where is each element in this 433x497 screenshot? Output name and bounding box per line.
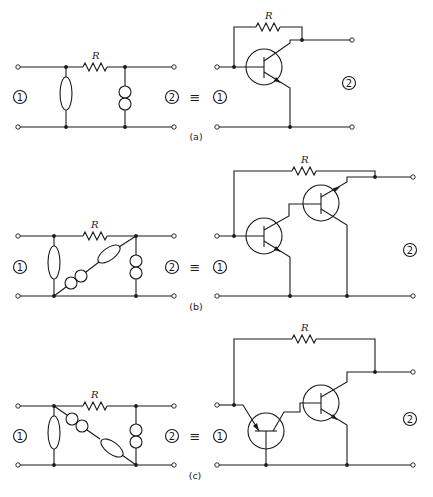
panel-b-right-circuit: R 1 2 [214, 154, 417, 298]
equivalence-sign: ≡ [190, 90, 201, 105]
panel-c-left-network: R 1 2 [14, 389, 179, 467]
resistor-icon [292, 335, 316, 343]
double-circle-element-icon [119, 86, 131, 98]
port-2-label: 2 [407, 414, 413, 425]
resistor-label: R [90, 219, 99, 230]
port-2-label: 2 [407, 245, 413, 256]
port-2-label: 2 [169, 431, 175, 442]
ellipse-element-icon [48, 416, 60, 449]
ellipse-element-icon [60, 77, 72, 110]
port-1-label: 1 [17, 431, 23, 442]
resistor-label: R [90, 389, 99, 400]
resistor-icon [292, 167, 316, 175]
panel-b-left-network: R 1 2 [14, 219, 179, 298]
port-1-label: 1 [217, 92, 223, 103]
port-2-label: 2 [169, 92, 175, 103]
ellipse-element-icon [98, 436, 126, 461]
panel-label: (a) [189, 131, 202, 142]
resistor-label: R [300, 154, 309, 165]
panel-c-right-circuit: R 1 2 [214, 322, 417, 467]
port-1-label: 1 [217, 431, 223, 442]
port-1-label: 1 [17, 262, 23, 273]
circuit-figure: R 1 2 ≡ (a) [0, 0, 433, 497]
panel-a: R 1 2 ≡ (a) [14, 10, 356, 142]
ellipse-element-icon [48, 246, 60, 279]
panel-c: R 1 2 ≡ (c) [14, 322, 417, 481]
resistor-icon [83, 232, 107, 240]
port-1-label: 1 [217, 262, 223, 273]
panel-a-left-network: R 1 2 [14, 50, 179, 129]
port-1-label: 1 [17, 92, 23, 103]
double-circle-element-icon [130, 424, 142, 436]
panel-a-right-circuit: R 1 2 [214, 10, 356, 129]
double-circle-element-icon [130, 255, 142, 267]
equivalence-sign: ≡ [190, 429, 201, 444]
panel-label: (b) [189, 301, 202, 312]
ellipse-element-icon [95, 242, 123, 267]
panel-b: R 1 2 ≡ (b) [14, 154, 417, 312]
resistor-label: R [300, 322, 309, 333]
panel-label: (c) [189, 470, 202, 481]
port-2-label: 2 [169, 262, 175, 273]
resistor-label: R [264, 10, 273, 21]
resistor-icon [83, 402, 107, 410]
resistor-icon [256, 23, 280, 31]
resistor-icon [83, 63, 107, 71]
equivalence-sign: ≡ [190, 260, 201, 275]
resistor-label: R [91, 50, 100, 61]
port-2-label: 2 [346, 78, 352, 89]
